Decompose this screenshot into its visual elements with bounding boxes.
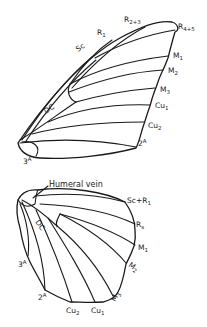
forewing-2a-vein (20, 140, 136, 147)
hindwing: Humeral vein DC Sc+R1 Rs M1 M2 M3 Cu1 Cu… (17, 180, 151, 316)
forewing-label-r45: R4+5 (178, 22, 195, 32)
forewing-label-dc: DC (42, 102, 56, 116)
hindwing-2a-vein (22, 202, 45, 290)
forewing-m3-vein (76, 88, 155, 102)
forewing-label-sc: Sc (74, 41, 86, 53)
hindwing-label-rs: Rs (136, 220, 144, 230)
hindwing-m3-vein (57, 226, 113, 296)
hindwing-m2-vein (60, 214, 126, 263)
hindwing-label-humeral-vein: Humeral vein (49, 180, 103, 189)
forewing-label-3a: 3A (23, 156, 32, 166)
forewing-3a-vein (22, 142, 38, 156)
hindwing-label-cu2: Cu2 (66, 306, 80, 316)
forewing-cu2-vein (32, 122, 144, 134)
forewing-label-m1: M1 (173, 51, 183, 61)
hindwing-label-m2: M2 (126, 260, 140, 274)
forewing-label-r1: R1 (97, 28, 106, 38)
forewing-cu1-vein (48, 105, 150, 122)
forewing: Sc R1 R2+3 R4+5 M1 M2 M3 Cu1 Cu2 2A 3A D… (18, 15, 195, 166)
wing-venation-diagram: Sc R1 R2+3 R4+5 M1 M2 M3 Cu1 Cu2 2A 3A D… (0, 0, 207, 327)
hindwing-label-m1: M1 (138, 243, 148, 253)
hindwing-outline (17, 189, 135, 303)
hindwing-label-2a: 2A (38, 292, 47, 302)
hindwing-discal-closure (56, 214, 60, 226)
hindwing-scr1-vein (35, 194, 125, 202)
forewing-label-cu1: Cu1 (155, 101, 169, 111)
forewing-outline (18, 22, 178, 159)
hindwing-rs-vein (40, 204, 135, 224)
hindwing-label-3a: 3A (18, 259, 27, 269)
hindwing-label-cu1: Cu1 (91, 306, 105, 316)
forewing-label-2a: 2A (138, 138, 147, 148)
hindwing-humeral-pointer (33, 186, 48, 198)
forewing-label-m3: M3 (160, 85, 170, 95)
hindwing-label-scr1: Sc+R1 (127, 196, 151, 206)
forewing-label-cu2: Cu2 (148, 121, 162, 131)
forewing-label-r23: R2+3 (124, 15, 141, 25)
forewing-discal-closure (68, 84, 76, 102)
forewing-label-m2: M2 (168, 66, 178, 76)
